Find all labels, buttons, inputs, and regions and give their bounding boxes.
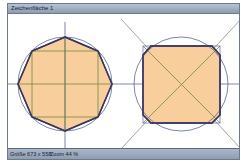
window-titlebar[interactable]: Zeichenfläche 1 [8,4,239,14]
octagon-figure[interactable] [18,22,112,149]
canvas-drawing [8,14,239,149]
document-size: Größe 673 x 558 [10,149,51,159]
window-title: Zeichenfläche 1 [11,4,53,13]
status-bar: Größe 673 x 558 Zoom 44 % [8,148,239,159]
drawing-window: Zeichenfläche 1 [7,3,240,160]
drawing-canvas[interactable] [8,14,239,149]
zoom-level[interactable]: Zoom 44 % [50,149,78,159]
